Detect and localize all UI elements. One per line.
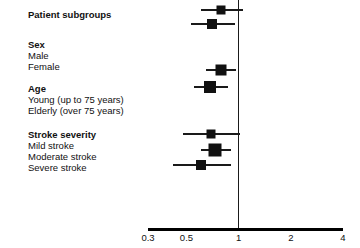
row-label-elderly-over-75-years: Elderly (over 75 years) xyxy=(28,106,124,116)
row-label-stroke-severity: Stroke severity xyxy=(28,130,96,140)
x-tick-0.3: 0.3 xyxy=(141,233,154,243)
x-tick-1: 1 xyxy=(236,233,241,243)
x-axis-line xyxy=(148,228,343,231)
point-estimate-marker xyxy=(196,160,206,170)
x-tick-0.5: 0.5 xyxy=(180,233,193,243)
point-estimate-marker xyxy=(215,65,226,76)
reference-line-at-1 xyxy=(238,0,240,228)
row-label-female: Female xyxy=(28,62,60,72)
forest-plot: Patient subgroupsSexMaleFemaleAgeYoung (… xyxy=(0,0,360,248)
x-tick-2: 2 xyxy=(288,233,293,243)
x-tick-4: 4 xyxy=(340,233,345,243)
point-estimate-marker xyxy=(207,19,217,29)
point-estimate-marker xyxy=(206,130,215,139)
row-label-patient-subgroups: Patient subgroups xyxy=(28,10,111,20)
row-label-sex: Sex xyxy=(28,40,45,50)
point-estimate-marker xyxy=(216,6,225,15)
row-label-mild-stroke: Mild stroke xyxy=(28,141,74,151)
row-label-moderate-stroke: Moderate stroke xyxy=(28,152,97,162)
row-label-age: Age xyxy=(28,84,46,94)
row-label-young-up-to-75-years: Young (up to 75 years) xyxy=(28,95,124,105)
point-estimate-marker xyxy=(204,81,216,93)
row-label-male: Male xyxy=(28,51,49,61)
row-label-severe-stroke: Severe stroke xyxy=(28,163,87,173)
point-estimate-marker xyxy=(208,144,221,157)
